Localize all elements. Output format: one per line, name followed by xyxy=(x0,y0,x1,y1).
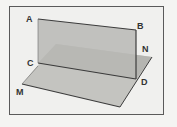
label-C: C xyxy=(27,58,34,68)
label-B: B xyxy=(137,21,144,31)
label-M: M xyxy=(16,87,24,97)
label-N: N xyxy=(142,44,149,54)
label-A: A xyxy=(26,14,33,24)
dihedral-diagram: A B N C D M xyxy=(0,0,177,127)
label-D: D xyxy=(141,77,148,87)
